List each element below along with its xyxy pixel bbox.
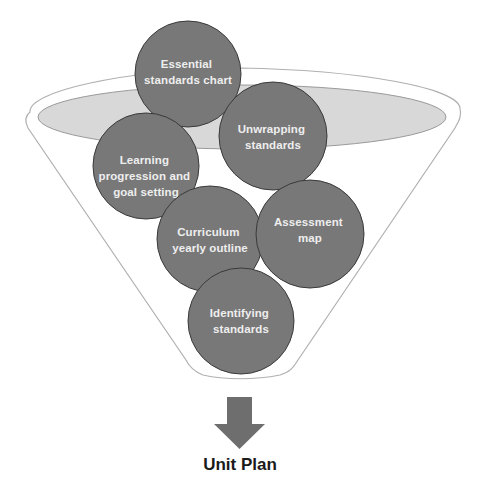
input-circle-identifying-standards: Identifying standards — [188, 268, 294, 374]
circle-label-line: standards — [245, 139, 301, 151]
circle-label-line: Learning — [120, 154, 169, 166]
output-label-unit-plan: Unit Plan — [203, 455, 277, 474]
down-arrow-icon — [214, 397, 265, 449]
input-circle-unwrapping-standards: Unwrapping standards — [219, 82, 327, 190]
circle-label-line: Identifying — [210, 307, 269, 319]
circle-label-line: Essential — [161, 58, 212, 70]
circle-shape — [219, 82, 327, 190]
funnel-diagram: Essential standards chart Unwrapping sta… — [0, 0, 481, 492]
circle-label-line: standards — [213, 323, 269, 335]
circle-label-line: progression and — [99, 170, 191, 182]
circle-label-line: map — [298, 232, 322, 244]
input-circle-assessment-map: Assessment map — [256, 180, 364, 288]
circle-label-line: Curriculum — [177, 226, 239, 238]
circle-label-line: Assessment — [274, 216, 343, 228]
circle-label-line: yearly outline — [172, 242, 248, 254]
circle-label-line: goal setting — [113, 186, 179, 198]
circle-shape — [188, 268, 294, 374]
circle-label-line: Unwrapping — [238, 123, 305, 135]
circle-label-line: standards chart — [144, 74, 232, 86]
